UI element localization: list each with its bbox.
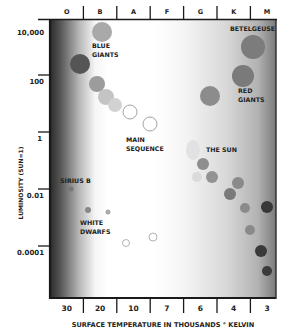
luminosity-axis: 10,00010010.010.0001 [17,29,50,257]
spectral-class-g: G [198,8,203,16]
annotation-label: GIANTS [92,51,119,58]
star-main-sequence [262,266,272,276]
star-main-sequence [261,201,273,213]
spectral-class-k: K [231,8,237,16]
spectral-class-m: M [264,8,270,16]
annotation-label: SIRIUS B [60,177,91,184]
y-tick-label: 0.01 [27,192,44,200]
annotation-label: THE SUN [206,146,237,153]
star-main-sequence [108,98,122,112]
x-tick-label: 10 [128,304,138,313]
star-main-sequence [89,76,105,92]
star-white-dwarf [85,207,91,213]
y-tick-label: 10,000 [17,29,44,37]
star-main-sequence [92,22,112,42]
star-main-sequence [224,188,236,200]
star-main-sequence [206,171,218,183]
spectral-class-a: A [131,8,136,16]
annotation-label: MAIN [126,136,145,143]
y-tick-label: 100 [29,78,44,86]
x-axis-label: SURFACE TEMPERATURE IN THOUSANDS ° KELVI… [72,321,255,329]
star-main-sequence [255,245,267,257]
spectral-class-axis: OBAFGKM [64,6,270,20]
annotation-label: GIANTS [238,96,265,103]
star-main-sequence [245,225,255,235]
annotation-label: RED [238,87,252,94]
star-white-dwarf [69,187,74,192]
x-tick-label: 20 [95,304,105,313]
y-tick-label: 0.0001 [17,249,44,257]
star-main-sequence [192,172,202,182]
annotation-label: BLUE [92,42,110,49]
star-main-sequence [240,203,250,213]
star-red-giant [200,86,220,106]
spectral-class-o: O [64,8,70,16]
annotation-label: BETELGEUSE [230,25,275,32]
x-tick-label: 30 [61,304,71,313]
annotation-label: DWARFS [80,228,111,235]
annotation-label: SEQUENCE [126,145,164,152]
star-sun [186,140,200,160]
y-axis-label: LUMINOSITY (SUN=1) [17,146,24,219]
star-main-sequence [197,158,209,170]
annotation-label: WHITE [80,219,103,226]
x-tick-label: 3 [264,304,269,313]
temperature-axis: 3020107643 [61,298,269,313]
star-white-dwarf [106,210,111,215]
star-main-sequence [232,177,244,189]
x-tick-label: 7 [164,304,169,313]
star-red-giant [241,35,265,59]
x-tick-label: 6 [198,304,203,313]
star-red-giant [232,65,254,87]
hr-diagram: OBAFGKM 10,00010010.010.0001 3020107643 … [0,0,292,334]
x-tick-label: 4 [231,304,236,313]
spectral-class-f: F [165,8,169,16]
spectral-class-b: B [98,8,103,16]
star-main-sequence [70,54,90,74]
y-tick-label: 1 [37,135,42,143]
